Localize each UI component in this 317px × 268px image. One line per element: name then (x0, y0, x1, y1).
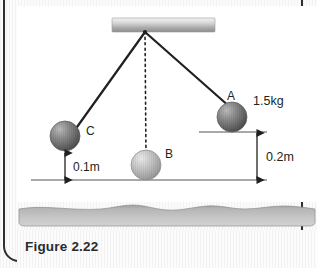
pendulum-strings (72, 30, 239, 156)
decorative-divider (17, 198, 317, 230)
ball-a-mass-label: 1.5kg (253, 94, 284, 108)
dimension-label-c: 0.1m (73, 160, 100, 174)
support-bar (112, 18, 215, 32)
ball-a-label: A (227, 89, 235, 103)
pivot-point (143, 30, 147, 34)
dimension-height-c: 0.1m (65, 153, 100, 180)
caption-band: Figure 2.22 (17, 230, 317, 268)
ball-b: B (131, 147, 173, 180)
ball-a: A 1.5kg (217, 89, 284, 132)
figure-page: C B A 1.5kg 0.1m (0, 0, 317, 268)
ball-c: C (50, 121, 95, 151)
string-to-ball-c (72, 32, 145, 134)
ball-c-label: C (86, 124, 95, 138)
figure-caption: Figure 2.22 (25, 239, 98, 254)
divider-wave-shape (19, 205, 315, 226)
string-to-ball-b-dotted (145, 32, 146, 156)
ball-b-label: B (165, 147, 173, 161)
string-to-ball-a (145, 32, 239, 115)
ceiling-support (112, 18, 215, 32)
pendulum-diagram: C B A 1.5kg 0.1m (17, 6, 317, 202)
figure-panel: C B A 1.5kg 0.1m (17, 6, 317, 202)
dimension-label-a: 0.2m (266, 150, 294, 164)
dimension-height-a: 0.2m (257, 133, 294, 180)
